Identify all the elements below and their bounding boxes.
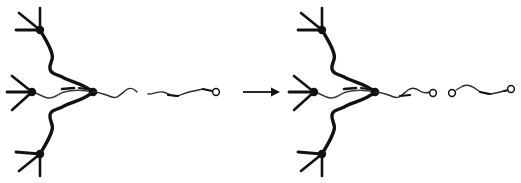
product-middle-arm-dash [344, 88, 356, 89]
reactant-lower-ray-left [16, 152, 40, 154]
product-terminal-unit-3-circle [508, 86, 515, 93]
figure-root: reactant → product Polymer Chain-End Fun… [0, 0, 521, 183]
product-tail-dash-1 [400, 95, 410, 96]
product-added-unit-1-circle [430, 90, 437, 97]
product-added-unit-2-circle [449, 90, 456, 97]
product-middle-arm-dash-2 [361, 88, 368, 89]
reactant-middle-arm-dash-2 [79, 88, 86, 89]
product-lower-ray-left [298, 152, 322, 154]
reactant-terminal-unit-1-circle [213, 89, 220, 96]
reactant-tail-dash [168, 95, 178, 96]
reactant-middle-arm-dash [62, 88, 74, 89]
reaction-scheme-diagram [0, 0, 521, 183]
